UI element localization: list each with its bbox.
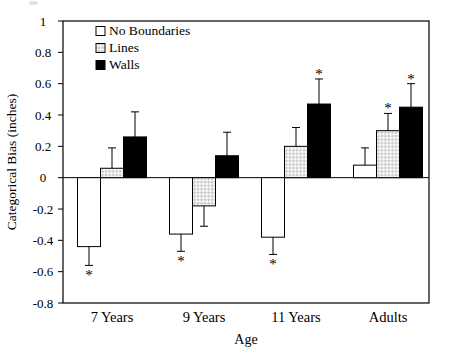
bar-chart-canvas: ******10.80.60.40.20-0.2-0.4-0.6-0.87 Ye… [0, 0, 449, 364]
bar [124, 137, 147, 178]
x-category-label: Adults [369, 309, 408, 325]
x-category-label: 11 Years [271, 309, 321, 325]
y-tick-label: 0.6 [35, 76, 52, 91]
y-tick-label: 0.8 [35, 45, 51, 60]
x-category-label: 9 Years [183, 309, 226, 325]
bar [262, 178, 285, 238]
y-tick-label: 1 [40, 14, 47, 29]
legend-label: Lines [109, 40, 139, 55]
y-tick-label: -0.4 [33, 233, 54, 248]
y-tick-label: 0 [40, 170, 47, 185]
bar [216, 156, 239, 178]
bar [354, 165, 377, 178]
legend-label: No Boundaries [109, 23, 190, 38]
significance-asterisk: * [177, 253, 185, 269]
bar [285, 146, 308, 177]
x-category-label: 7 Years [91, 309, 134, 325]
y-tick-label: -0.8 [33, 296, 54, 311]
legend-swatch [96, 44, 105, 53]
legend-swatch [96, 61, 105, 70]
legend-label: Walls [109, 57, 139, 72]
bar [193, 178, 216, 206]
significance-asterisk: * [269, 256, 277, 272]
bar [377, 131, 400, 178]
bar [101, 168, 124, 177]
x-axis-title: Age [186, 332, 306, 348]
y-tick-label: -0.2 [33, 202, 54, 217]
significance-asterisk: * [384, 100, 392, 116]
y-axis-title: Categorical Bias (inches) [4, 12, 24, 312]
significance-asterisk: * [315, 66, 323, 82]
bar [308, 104, 331, 178]
legend-swatch [96, 27, 105, 36]
y-tick-label: -0.6 [33, 264, 54, 279]
bar [78, 178, 101, 247]
figure: ******10.80.60.40.20-0.2-0.4-0.6-0.87 Ye… [0, 0, 449, 364]
y-tick-label: 0.4 [35, 108, 52, 123]
bar [400, 107, 423, 177]
bar [170, 178, 193, 234]
y-tick-label: 0.2 [35, 139, 51, 154]
significance-asterisk: * [407, 71, 415, 87]
significance-asterisk: * [85, 267, 93, 283]
